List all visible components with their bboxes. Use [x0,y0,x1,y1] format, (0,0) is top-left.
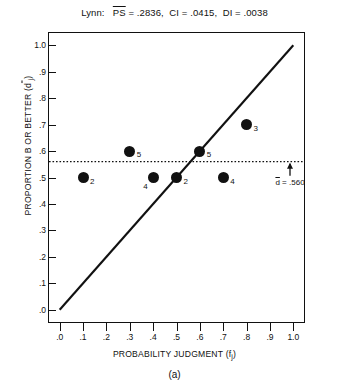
x-axis-title-text: PROBABILITY JUDGMENT (f [113,349,231,359]
y-axis-dbar [23,80,33,83]
data-point-count-label: 5 [207,150,211,159]
data-point-count-label: 5 [137,150,141,159]
dbar-symbol: d [275,178,279,187]
plot-lines [0,0,349,390]
dbar-value: = .560 [282,178,304,187]
up-arrow-icon [287,163,293,176]
x-axis-title-end: ) [233,349,236,359]
x-axis-title: PROBABILITY JUDGMENT (fj) [0,349,349,360]
data-point-count-label: 4 [230,177,234,186]
figure-caption: (a) [0,369,349,380]
y-axis-title-text: PROPORTION B OR BETTER (d [23,83,33,215]
data-point-count-label: 2 [90,177,94,186]
dbar-annotation: d = .560 [256,178,324,187]
data-point [148,172,159,183]
data-point [124,146,135,157]
data-point [218,172,229,183]
data-point [78,172,89,183]
y-axis-title: PROPORTION B OR BETTER (d j) [23,26,34,266]
figure: Lynn: PS = .2836, CI = .0415, DI = .0038… [0,0,349,390]
data-point-count-label: 3 [254,124,258,133]
data-point-count-label: 2 [184,177,188,186]
y-axis-subscript: j [27,79,34,81]
y-axis-title-end: ) [23,76,33,79]
data-point [194,146,205,157]
data-point-count-label: 4 [143,182,147,191]
data-point [171,172,182,183]
